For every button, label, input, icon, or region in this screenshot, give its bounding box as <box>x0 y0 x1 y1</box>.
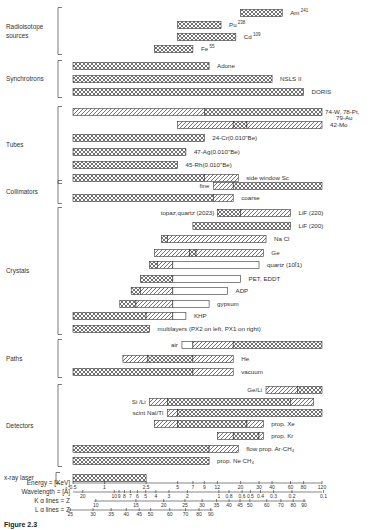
bar-segment-diagonal <box>193 356 233 363</box>
tick-label: 20 <box>161 502 167 508</box>
bar-segment-crosshatch <box>73 149 186 156</box>
range-bar: gypsum <box>120 300 239 308</box>
tick-label: 30 <box>256 484 262 490</box>
range-bar: topaz,quartz (2023)LiF (220) <box>161 209 324 217</box>
bar-segment-crosshatch <box>73 313 146 320</box>
bar-segment-crosshatch <box>298 387 322 394</box>
group-bracket <box>58 385 62 467</box>
tick-label: 120 <box>318 484 327 490</box>
tick-label: 1 <box>217 493 220 499</box>
tick-label: 80 <box>301 484 307 490</box>
bar-segment-diagonal <box>213 183 233 190</box>
range-bar: Am 241 <box>241 8 309 17</box>
range-bar: air <box>171 341 322 349</box>
tick-label: 12 <box>215 484 221 490</box>
bar-segment-diagonal <box>204 175 238 182</box>
tick-label: 0.1 <box>320 493 327 499</box>
tick-label: 60 <box>288 484 294 490</box>
bar-segment-diagonal <box>136 301 173 308</box>
bar-segment-crosshatch <box>73 446 209 453</box>
bar-label: 47-Ag(0.010"Be) <box>194 148 240 155</box>
bar-segment-diagonal <box>247 421 263 428</box>
bar-label: multilayers (PX2 on left, PX1 on right) <box>158 325 261 332</box>
tick-label: 25 <box>182 502 188 508</box>
bar-segment-crosshatch <box>73 135 204 142</box>
bar-segment-crosshatch <box>131 288 140 295</box>
tick-label: 20 <box>80 493 86 499</box>
range-bar: scint NaI/Tl <box>133 409 322 417</box>
group-x-ray-laser: x-ray laser <box>4 473 146 484</box>
range-bar: ADP <box>131 287 248 295</box>
bar-segment-diagonal <box>241 210 291 217</box>
bar-segment-diagonal <box>266 387 297 394</box>
range-bar: prop. Xe <box>154 420 295 428</box>
bar-label: 24-Cr(0.010"Be) <box>212 134 257 141</box>
bar-segment-crosshatch <box>178 421 247 428</box>
range-bar: prop. Kr <box>217 432 293 440</box>
tick-label: 2 <box>186 493 189 499</box>
tick-label: 1 <box>103 484 106 490</box>
bar-segment-crosshatch <box>73 89 304 96</box>
tick-label: 50 <box>148 511 154 517</box>
axes: Energy = [KeV]0.512.5579122030406080120W… <box>21 479 327 517</box>
bar-segment-diagonal <box>193 342 233 349</box>
bar-segment-diagonal <box>167 236 266 243</box>
bar-label: 45-Rh(0.010"Be) <box>186 161 232 168</box>
tick-label: 6 <box>136 493 139 499</box>
tick-label: 0.3 <box>270 493 277 499</box>
k-alpha-axis: K α lines = Z10152025303540455060708090 <box>34 497 307 508</box>
bar-segment-crosshatch <box>150 262 158 269</box>
group-paths: PathsairHevacuum <box>6 340 322 378</box>
bar-segment-diagonal <box>73 109 204 116</box>
tick-label: 30 <box>90 511 96 517</box>
tick-label: 4 <box>154 493 157 499</box>
bar-segment-crosshatch <box>73 369 193 376</box>
bar-segment-crosshatch <box>190 250 197 257</box>
bar-segment-crosshatch <box>73 175 204 182</box>
axis-label: Energy = [KeV] <box>27 479 70 487</box>
bar-segment-crosshatch <box>204 109 322 116</box>
group-label: Paths <box>6 355 22 362</box>
range-bar <box>73 475 146 482</box>
bar-segment-diagonal <box>146 313 173 320</box>
bar-label: fine <box>199 182 210 189</box>
bar-label: Adone <box>217 62 235 69</box>
bar-label: DORIS <box>312 88 332 95</box>
group-label: Radioisotope <box>6 23 44 31</box>
tick-label: 10 <box>111 493 117 499</box>
bar-segment-crosshatch <box>233 433 259 440</box>
range-bar: fine <box>199 182 322 190</box>
tick-label: 0.2 <box>289 493 296 499</box>
group-bracket <box>58 61 62 98</box>
axis-label: K α lines = Z <box>34 497 70 504</box>
bar-segment-crosshatch <box>154 46 192 53</box>
tick-label: 80 <box>290 502 296 508</box>
bar-segment-crosshatch <box>73 326 150 333</box>
bar-segment-diagonal <box>196 250 263 257</box>
bar-label: ADP <box>236 287 249 294</box>
energy-axis: Energy = [KeV]0.512.5579122030406080120 <box>27 479 327 490</box>
bar-segment-diagonal <box>154 250 189 257</box>
axis-label: L α lines = Z <box>35 506 70 513</box>
bar-segment-crosshatch <box>233 122 247 129</box>
tick-label: 0.5 <box>70 484 77 490</box>
group-label: sources <box>6 32 28 39</box>
tick-label: 60 <box>167 511 173 517</box>
group-bracket <box>58 8 62 55</box>
tick-label: 30 <box>199 502 205 508</box>
group-bracket <box>58 340 62 378</box>
bar-label: Na Cl <box>274 235 289 242</box>
bar-segment-crosshatch <box>161 236 167 243</box>
bar-segment-crosshatch <box>193 223 291 230</box>
range-bar: LiF (200) <box>193 222 323 230</box>
group-detectors: DetectorsGe/LiSi /Liscint NaI/Tlprop. Xe… <box>6 385 322 467</box>
bar-segment-diagonal <box>209 446 238 453</box>
bar-label: Pu 238 <box>229 20 246 28</box>
bar-segment-crosshatch <box>73 76 272 83</box>
range-bar: PET, EDDT <box>140 275 280 283</box>
bar-segment-open <box>182 342 193 349</box>
bar-label: flow prop. Ar-CH₄ <box>246 445 294 452</box>
bar-label: side window Sc <box>246 174 289 181</box>
bars-layer: RadioisotopesourcesAm 241Pu 238Cd 109Fe … <box>4 8 360 484</box>
range-bar: 24-Cr(0.010"Be) <box>73 134 257 142</box>
